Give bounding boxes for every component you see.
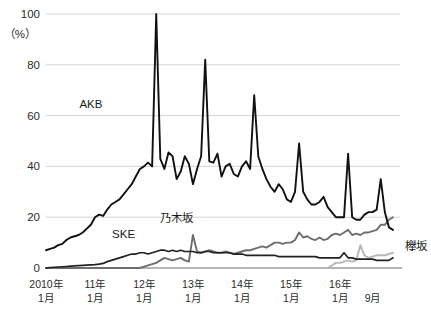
y-tick-label-80: 80 bbox=[27, 59, 40, 71]
annotation-SKE48: SKE bbox=[112, 228, 135, 240]
x-tick-label-year-2: 12年 bbox=[133, 278, 155, 290]
annotation-乃木坂46: 乃木坂 bbox=[160, 212, 194, 224]
x-tick-label-year-4: 14年 bbox=[231, 278, 253, 290]
y-tick-label-20: 20 bbox=[27, 211, 40, 223]
x-tick-label-year-6: 16年 bbox=[329, 278, 351, 290]
x-tick-label-month-6: 1月 bbox=[332, 292, 348, 304]
x-tick-label-month-1: 1月 bbox=[87, 292, 103, 304]
x-tick-7: 9月 bbox=[365, 292, 381, 304]
x-tick-label-month-2: 1月 bbox=[136, 292, 152, 304]
annotation-欅坂46: 欅坂 bbox=[405, 240, 428, 252]
line-chart: 020406080100 （%） 2010年1月11年1月12年1月13年1月1… bbox=[0, 0, 431, 320]
y-tick-label-40: 40 bbox=[27, 160, 40, 172]
x-tick-label-month-3: 1月 bbox=[185, 292, 201, 304]
x-tick-label-year-0: 2010年 bbox=[29, 278, 62, 290]
x-tick-label-month-7: 9月 bbox=[365, 292, 381, 304]
x-tick-label-year-1: 11年 bbox=[85, 278, 106, 290]
annotation-AKB48: AKB bbox=[79, 98, 102, 110]
x-tick-label-year-5: 15年 bbox=[280, 278, 302, 290]
x-tick-label-month-5: 1月 bbox=[283, 292, 299, 304]
x-tick-label-month-0: 1月 bbox=[38, 292, 54, 304]
x-tick-label-year-3: 13年 bbox=[182, 278, 204, 290]
y-tick-label-0: 0 bbox=[34, 262, 40, 274]
y-axis-unit-label: （%） bbox=[4, 28, 36, 40]
y-tick-label-60: 60 bbox=[27, 110, 40, 122]
chart-canvas: 020406080100 （%） 2010年1月11年1月12年1月13年1月1… bbox=[0, 0, 431, 320]
x-tick-label-month-4: 1月 bbox=[234, 292, 250, 304]
y-tick-label-100: 100 bbox=[21, 8, 40, 20]
